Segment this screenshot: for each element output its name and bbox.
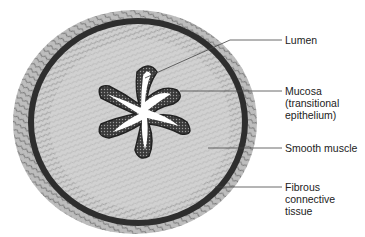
label-text: epithelium) bbox=[285, 109, 339, 121]
label-text: (transitional bbox=[285, 97, 339, 109]
label-text: Mucosa bbox=[285, 85, 339, 97]
label-text: Fibrous bbox=[285, 181, 335, 193]
label-text: tissue bbox=[285, 205, 335, 217]
label-text: Smooth muscle bbox=[285, 142, 357, 154]
label-lumen: Lumen bbox=[285, 34, 317, 46]
label-text: Lumen bbox=[285, 34, 317, 46]
label-fibrous-connective-tissue: Fibrous connective tissue bbox=[285, 181, 335, 217]
label-text: connective bbox=[285, 193, 335, 205]
label-mucosa: Mucosa (transitional epithelium) bbox=[285, 85, 339, 121]
label-smooth-muscle: Smooth muscle bbox=[285, 142, 357, 154]
ureter-cross-section-figure: Lumen Mucosa (transitional epithelium) S… bbox=[0, 0, 365, 237]
